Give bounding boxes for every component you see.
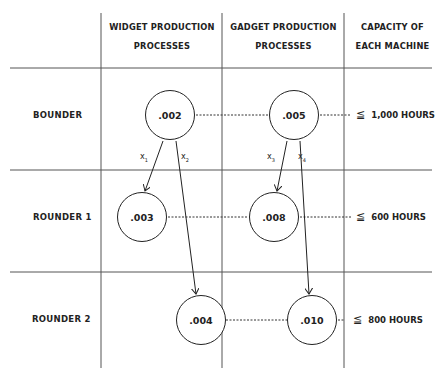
capacity-rounder-1: ≦600 HOURS bbox=[356, 210, 426, 223]
less-equal-icon: ≦ bbox=[356, 210, 365, 223]
node-bounder-widget: .002 bbox=[145, 90, 195, 140]
row-label-bounder: BOUNDER bbox=[33, 110, 82, 120]
node-bounder-gadget: .005 bbox=[269, 90, 319, 140]
header-capacity: CAPACITY OF EACH MACHINE bbox=[345, 18, 440, 56]
capacity-rounder-2: ≦800 HOURS bbox=[353, 313, 423, 326]
capacity-value: 600 HOURS bbox=[371, 212, 426, 222]
header-line: PROCESSES bbox=[223, 37, 344, 56]
var-sub: 2 bbox=[186, 157, 189, 163]
header-line: GADGET PRODUCTION bbox=[223, 18, 344, 37]
node-rounder1-widget: .003 bbox=[117, 192, 167, 242]
header-line: EACH MACHINE bbox=[345, 37, 440, 56]
header-line: CAPACITY OF bbox=[345, 18, 440, 37]
variable-x4: x4 bbox=[298, 152, 306, 163]
capacity-bounder: ≦1,000 HOURS bbox=[356, 108, 435, 121]
header-gadget-processes: GADGET PRODUCTION PROCESSES bbox=[223, 18, 344, 56]
node-rounder1-gadget: .008 bbox=[249, 192, 299, 242]
variable-x2: x2 bbox=[181, 152, 189, 163]
header-line: WIDGET PRODUCTION bbox=[102, 18, 222, 37]
less-equal-icon: ≦ bbox=[353, 313, 362, 326]
variable-x3: x3 bbox=[267, 152, 275, 163]
node-rounder2-gadget: .010 bbox=[287, 295, 337, 345]
row-label-rounder-1: ROUNDER 1 bbox=[33, 212, 92, 222]
capacity-value: 800 HOURS bbox=[368, 315, 423, 325]
row-label-rounder-2: ROUNDER 2 bbox=[32, 314, 91, 324]
var-sub: 3 bbox=[272, 157, 275, 163]
var-sub: 4 bbox=[303, 157, 306, 163]
node-rounder2-widget: .004 bbox=[176, 295, 226, 345]
header-line: PROCESSES bbox=[102, 37, 222, 56]
variable-x1: x1 bbox=[140, 152, 148, 163]
capacity-value: 1,000 HOURS bbox=[371, 110, 435, 120]
header-widget-processes: WIDGET PRODUCTION PROCESSES bbox=[102, 18, 222, 56]
var-sub: 1 bbox=[145, 157, 148, 163]
less-equal-icon: ≦ bbox=[356, 108, 365, 121]
